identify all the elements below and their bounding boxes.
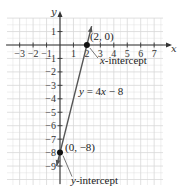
y-tick-label: −5 — [45, 107, 56, 118]
y-axis-arrow-icon — [58, 11, 63, 17]
y-tick-label: −9 — [45, 161, 56, 172]
y-tick-label: 1 — [51, 26, 56, 37]
y-tick-label: −8 — [45, 147, 56, 158]
x-intercept-label: x-intercept — [99, 54, 147, 66]
x-intercept-coord-label: (2, 0) — [90, 30, 114, 43]
y-tick-label: −2 — [45, 66, 56, 77]
y-axis-label: y — [50, 6, 57, 17]
y-tick-label: −3 — [45, 80, 56, 91]
y-tick-label: −1 — [45, 53, 56, 64]
x-intercept-leader-line — [90, 48, 98, 58]
x-tick-label: 7 — [152, 48, 157, 59]
y-tick-label: −6 — [45, 120, 56, 131]
x-intercept-point — [84, 42, 90, 48]
graph-of-linear-equation: xy −3−2−112345671−1−2−3−4−5−6−7−8−9 (2, … — [0, 0, 181, 191]
x-tick-label: −3 — [14, 48, 25, 59]
y-intercept-label: y-intercept — [70, 174, 118, 186]
x-tick-label: −2 — [28, 48, 39, 59]
y-intercept-coord-label: (0, −8) — [65, 141, 95, 154]
y-intercept-point — [57, 150, 63, 156]
x-axis-label: x — [171, 43, 177, 54]
y-tick-label: −7 — [45, 134, 56, 145]
equation-label: y = 4x − 8 — [78, 85, 124, 97]
y-tick-label: −4 — [45, 93, 56, 104]
x-tick-label: 1 — [71, 48, 76, 59]
